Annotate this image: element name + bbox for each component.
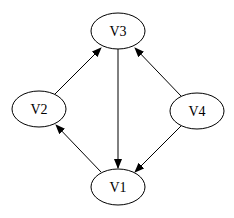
node-v2-label: V2 <box>30 102 47 117</box>
edge-v4-v1 <box>135 126 181 172</box>
edge-v4-v3 <box>135 48 181 96</box>
graph-diagram: V3 V2 V4 V1 <box>0 0 234 218</box>
edge-v1-v2 <box>56 125 101 172</box>
node-v1[interactable]: V1 <box>91 169 145 205</box>
node-v4[interactable]: V4 <box>170 93 224 129</box>
node-v1-label: V1 <box>109 180 126 195</box>
node-v3[interactable]: V3 <box>91 13 145 49</box>
edge-v2-v3 <box>55 48 101 94</box>
graph-canvas: V3 V2 V4 V1 <box>0 0 234 218</box>
node-v4-label: V4 <box>188 104 205 119</box>
node-v2[interactable]: V2 <box>12 91 66 127</box>
node-v3-label: V3 <box>109 24 126 39</box>
